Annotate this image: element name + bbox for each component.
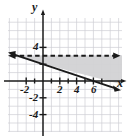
y-axis-arrow	[41, 10, 45, 16]
y-tick-label-neg2: -2	[29, 91, 38, 103]
x-axis-label: x	[117, 76, 123, 91]
x-tick-label-6: 6	[91, 83, 97, 95]
x-tick-label-neg2: -2	[20, 83, 29, 95]
graph-figure: y x 4 -2 -4 -2 2 4 6	[0, 0, 129, 139]
coordinate-plane-svg	[0, 0, 129, 139]
x-tick-label-4: 4	[74, 83, 80, 95]
x-tick-label-2: 2	[57, 83, 63, 95]
y-tick-label-4: 4	[33, 40, 39, 52]
y-axis-label: y	[32, 0, 37, 15]
y-tick-label-neg4: -4	[29, 108, 38, 120]
